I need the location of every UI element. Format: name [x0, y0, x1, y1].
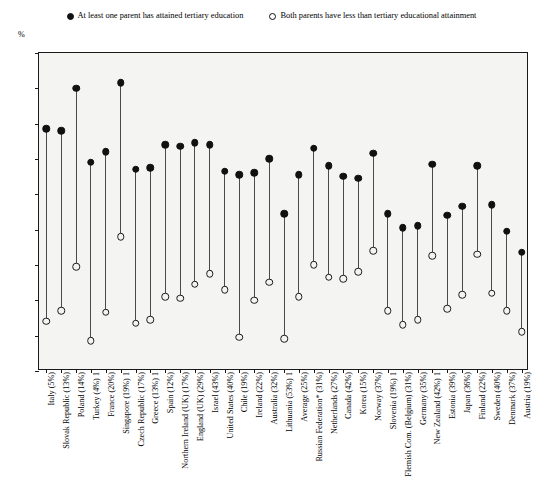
data-point-tertiary-parent — [399, 224, 407, 232]
data-connector-line — [209, 147, 210, 276]
x-axis-category-label: Slovenia (19%) 1 — [387, 372, 395, 429]
x-axis-category-label-text: Australia (32%) — [271, 372, 279, 425]
x-axis-category-label-text: Lithuania (53%) 1 — [286, 372, 294, 432]
x-axis-category-label-text: Canada (42%) — [345, 372, 353, 419]
x-axis-category-label-text: Estonia (39%) — [449, 372, 457, 419]
data-point-non-tertiary-parents — [161, 293, 169, 301]
data-point-tertiary-parent — [444, 212, 452, 220]
data-point-tertiary-parent — [251, 169, 259, 177]
x-axis-category-label: Korea (15%) — [357, 372, 365, 415]
data-connector-line — [417, 228, 418, 322]
y-axis-tick-mark — [35, 53, 39, 54]
x-axis-category-label: Russian Federation* (31%) — [313, 372, 321, 462]
data-point-tertiary-parent — [191, 139, 199, 147]
legend-label: Both parents have less than tertiary edu… — [280, 12, 476, 20]
x-axis-category-label: New Zealand (42%) 1 — [431, 372, 439, 445]
x-axis-category-label: Czech Republic (17%) — [135, 372, 143, 447]
data-connector-line — [61, 133, 62, 313]
data-point-tertiary-parent — [369, 150, 377, 158]
data-point-tertiary-parent — [117, 79, 125, 87]
x-axis-category-label: Chile (19%) — [238, 372, 246, 412]
x-axis-category-label-text: Slovenia (19%) 1 — [390, 372, 398, 429]
data-point-tertiary-parent — [310, 144, 318, 152]
chart-legend: At least one parent has attained tertiar… — [0, 6, 543, 26]
data-point-non-tertiary-parents — [265, 279, 273, 287]
x-axis-category-label-text: Sweden (40%) — [494, 372, 502, 420]
data-point-non-tertiary-parents — [473, 250, 481, 258]
data-point-non-tertiary-parents — [251, 296, 259, 304]
data-point-tertiary-parent — [132, 166, 140, 174]
data-point-non-tertiary-parents — [384, 307, 392, 315]
data-connector-line — [284, 216, 285, 341]
x-axis-category-label-text: Singapore (19%) 1 — [123, 372, 131, 434]
data-point-tertiary-parent — [458, 203, 466, 211]
data-connector-line — [328, 168, 329, 279]
data-point-tertiary-parent — [176, 143, 184, 151]
x-axis-category-label: Poland (14%) — [75, 372, 83, 417]
open-circle-icon — [269, 13, 276, 20]
data-point-non-tertiary-parents — [488, 289, 496, 297]
x-axis-category-label-text: Netherlands (27%) — [331, 372, 339, 434]
x-axis-labels: Italy (5%)Slovak Republic (13%)Poland (1… — [38, 372, 528, 498]
data-point-tertiary-parent — [325, 162, 333, 170]
y-axis-tick-mark — [35, 230, 39, 231]
y-axis-tick-mark — [35, 336, 39, 337]
x-axis-category-label: Lithuania (53%) 1 — [283, 372, 291, 432]
x-axis-category-label-text: Chile (19%) — [241, 372, 249, 412]
x-axis-category-label: Slovak Republic (13%) — [60, 372, 68, 449]
data-connector-line — [254, 175, 255, 302]
legend-entry-both-parents-less-than-tertiary: Both parents have less than tertiary edu… — [269, 12, 476, 20]
x-axis-category-label: Northern Ireland (UK) (17%) — [179, 372, 187, 469]
x-axis-category-label-text: Average (25%) — [301, 372, 309, 422]
data-connector-line — [387, 216, 388, 313]
data-point-tertiary-parent — [354, 174, 362, 182]
x-axis-category-label-text: Northern Ireland (UK) (17%) — [182, 372, 190, 469]
x-axis-category-label: Japan (36%) — [461, 372, 469, 413]
data-connector-line — [402, 230, 403, 327]
data-connector-line — [194, 145, 195, 286]
data-point-tertiary-parent — [206, 141, 214, 149]
y-axis-unit-label: % — [18, 30, 25, 39]
data-connector-line — [46, 131, 47, 324]
y-axis-tick-mark — [35, 159, 39, 160]
data-point-tertiary-parent — [473, 162, 481, 170]
data-point-tertiary-parent — [72, 84, 80, 92]
data-point-non-tertiary-parents — [58, 307, 66, 315]
y-axis-tick-mark — [35, 300, 39, 301]
x-axis-category-label: Spain (12%) — [164, 372, 172, 413]
data-point-non-tertiary-parents — [295, 293, 303, 301]
x-axis-category-label-text: Israel (43%) — [212, 372, 220, 413]
data-point-non-tertiary-parents — [147, 316, 155, 324]
data-point-non-tertiary-parents — [87, 337, 95, 345]
filled-circle-icon — [67, 13, 74, 20]
data-connector-line — [447, 217, 448, 311]
x-axis-category-label: Australia (32%) — [268, 372, 276, 425]
data-point-tertiary-parent — [161, 141, 169, 149]
data-point-non-tertiary-parents — [221, 286, 229, 294]
x-axis-category-label-text: Poland (14%) — [78, 372, 86, 417]
x-axis-category-label: Greece (13%) 1 — [149, 372, 157, 424]
x-axis-category-label-text: New Zealand (42%) 1 — [434, 372, 442, 445]
x-axis-category-label: Finland (22%) — [476, 372, 484, 420]
x-axis-category-label: Israel (43%) — [209, 372, 217, 413]
data-connector-line — [358, 180, 359, 274]
data-connector-line — [477, 168, 478, 256]
data-connector-line — [105, 154, 106, 315]
data-point-non-tertiary-parents — [43, 318, 51, 326]
data-point-tertiary-parent — [221, 167, 229, 175]
x-axis-category-label-text: Italy (5%) — [48, 372, 56, 405]
data-connector-line — [224, 173, 225, 291]
data-point-tertiary-parent — [488, 201, 496, 209]
x-axis-category-label: Germany (35%) — [417, 372, 425, 425]
x-axis-category-label-text: Slovak Republic (13%) — [63, 372, 71, 449]
x-axis-category-label-text: Flemish Com. (Belgium) (31%) — [405, 372, 413, 477]
x-axis-category-label: United States (40%) — [224, 372, 232, 438]
data-connector-line — [90, 164, 91, 342]
data-point-non-tertiary-parents — [191, 280, 199, 288]
legend-label: At least one parent has attained tertiar… — [78, 12, 244, 20]
data-point-non-tertiary-parents — [132, 319, 140, 327]
y-axis-tick-mark — [35, 194, 39, 195]
data-point-tertiary-parent — [87, 159, 95, 167]
x-axis-category-label: Flemish Com. (Belgium) (31%) — [402, 372, 410, 477]
x-axis-category-label-text: Korea (15%) — [360, 372, 368, 415]
